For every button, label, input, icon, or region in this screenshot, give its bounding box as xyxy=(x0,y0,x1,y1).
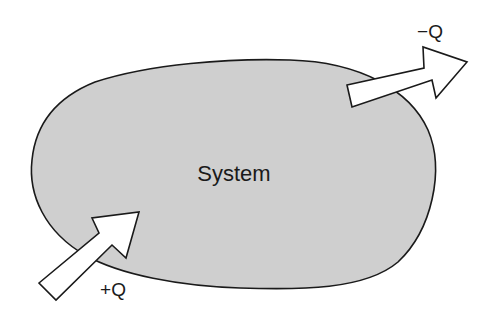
heat-out-label: −Q xyxy=(417,21,443,42)
system-heat-diagram: System −Q +Q xyxy=(0,0,490,319)
system-label: System xyxy=(197,161,270,186)
heat-in-label: +Q xyxy=(100,279,126,300)
